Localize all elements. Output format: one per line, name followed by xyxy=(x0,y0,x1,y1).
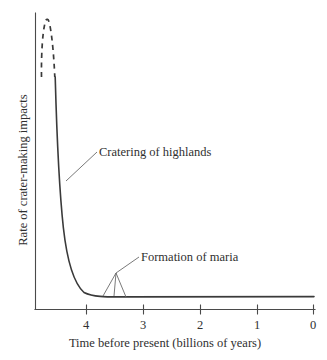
leader-line-maria-fan-3 xyxy=(116,273,126,297)
x-axis-caption: Time before present (billions of years) xyxy=(69,336,261,350)
y-axis-caption: Rate of crater-making impacts xyxy=(16,94,30,246)
annotation-label-maria: Formation of maria xyxy=(141,250,239,264)
axes-group xyxy=(35,13,315,310)
tick-label-1: 1 xyxy=(254,318,260,332)
chart-canvas: 4 3 2 1 0 Time before present (billions … xyxy=(0,0,327,360)
x-axis-tick-labels: 4 3 2 1 0 xyxy=(83,318,316,332)
curve-inferred-peak-dashed xyxy=(41,19,54,77)
tick-label-0: 0 xyxy=(310,318,316,332)
leader-line-highlands xyxy=(66,152,97,181)
tick-label-4: 4 xyxy=(83,318,90,332)
cratering-rate-figure: 4 3 2 1 0 Time before present (billions … xyxy=(0,0,327,360)
annotation-cratering-of-highlands: Cratering of highlands xyxy=(66,145,212,181)
tick-label-3: 3 xyxy=(140,318,146,332)
annotation-label-highlands: Cratering of highlands xyxy=(99,145,212,159)
tick-label-2: 2 xyxy=(197,318,203,332)
leader-line-maria-main xyxy=(116,257,139,273)
annotation-formation-of-maria: Formation of maria xyxy=(103,250,239,297)
